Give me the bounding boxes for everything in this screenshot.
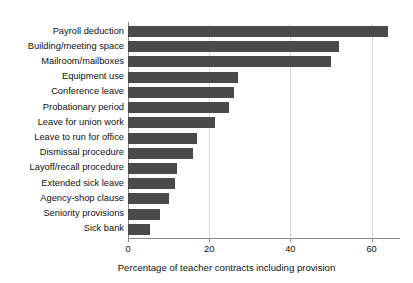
bar-row <box>128 207 400 222</box>
x-tick-mark-0 <box>128 238 129 242</box>
bar <box>128 72 238 83</box>
x-tick-mark-60 <box>372 238 373 242</box>
x-tick-label-40: 40 <box>275 244 305 255</box>
bar-row <box>128 100 400 115</box>
category-label: Conference leave <box>0 86 124 97</box>
bar <box>128 148 193 159</box>
x-tick-mark-20 <box>209 238 210 242</box>
bar-row <box>128 146 400 161</box>
category-label: Extended sick leave <box>0 178 124 189</box>
x-axis-line <box>128 238 400 239</box>
bar <box>128 41 339 52</box>
bar <box>128 178 175 189</box>
plot-area <box>128 24 400 237</box>
bar-chart-figure: Payroll deductionBuilding/meeting spaceM… <box>0 0 413 283</box>
bar <box>128 102 229 113</box>
bar-row <box>128 131 400 146</box>
bar-row <box>128 176 400 191</box>
category-label: Leave for union work <box>0 117 124 128</box>
bar-row <box>128 70 400 85</box>
category-axis-labels: Payroll deductionBuilding/meeting spaceM… <box>0 24 124 237</box>
category-label: Sick bank <box>0 223 124 234</box>
category-label: Dismissal procedure <box>0 147 124 158</box>
bar-row <box>128 115 400 130</box>
bar-row <box>128 222 400 237</box>
category-label: Building/meeting space <box>0 41 124 52</box>
bar <box>128 224 150 235</box>
bar <box>128 209 160 220</box>
category-label: Layoff/recall procedure <box>0 162 124 173</box>
category-label: Agency-shop clause <box>0 193 124 204</box>
bar <box>128 193 169 204</box>
category-label: Mailroom/mailboxes <box>0 56 124 67</box>
bar <box>128 87 234 98</box>
x-tick-label-60: 60 <box>357 244 387 255</box>
bar <box>128 163 177 174</box>
bar-row <box>128 54 400 69</box>
x-tick-label-0: 0 <box>113 244 143 255</box>
bar-row <box>128 24 400 39</box>
bar-row <box>128 161 400 176</box>
x-tick-mark-40 <box>290 238 291 242</box>
x-axis-title: Percentage of teacher contracts includin… <box>0 262 413 273</box>
x-axis-title-text: Percentage of teacher contracts includin… <box>78 262 336 273</box>
bar <box>128 56 331 67</box>
bar-row <box>128 85 400 100</box>
x-tick-label-20: 20 <box>194 244 224 255</box>
bar-row <box>128 39 400 54</box>
category-label: Payroll deduction <box>0 26 124 37</box>
bar <box>128 26 388 37</box>
category-label: Equipment use <box>0 71 124 82</box>
category-label: Probationary period <box>0 102 124 113</box>
bar <box>128 133 197 144</box>
category-label: Leave to run for office <box>0 132 124 143</box>
bar <box>128 117 215 128</box>
category-label: Seniority provisions <box>0 208 124 219</box>
bar-row <box>128 191 400 206</box>
